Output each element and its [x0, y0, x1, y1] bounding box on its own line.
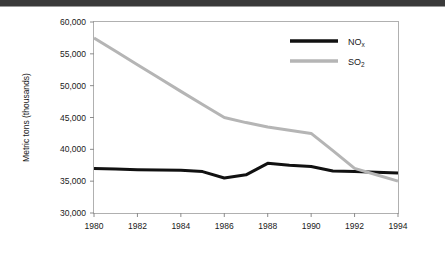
- y-tick-label: 60,000: [60, 17, 86, 27]
- x-tick-label: 1984: [171, 221, 190, 231]
- x-tick-label: 1986: [215, 221, 234, 231]
- y-tick-label: 50,000: [60, 81, 86, 91]
- y-tick-label: 35,000: [60, 176, 86, 186]
- x-tick-label: 1992: [345, 221, 364, 231]
- x-tick-label: 1994: [389, 221, 408, 231]
- y-tick-label: 45,000: [60, 113, 86, 123]
- chart-canvas: 30,00035,00040,00045,00050,00055,00060,0…: [0, 7, 445, 254]
- x-tick-label: 1982: [128, 221, 147, 231]
- x-tick-label: 1988: [258, 221, 277, 231]
- y-axis-ticks: 30,00035,00040,00045,00050,00055,00060,0…: [60, 17, 94, 218]
- y-tick-label: 55,000: [60, 49, 86, 59]
- chart-figure: 30,00035,00040,00045,00050,00055,00060,0…: [0, 0, 445, 254]
- plot-frame: [94, 22, 399, 214]
- x-axis-ticks: 19801982198419861988199019921994: [85, 213, 408, 231]
- x-tick-label: 1980: [85, 221, 104, 231]
- line-chart: 30,00035,00040,00045,00050,00055,00060,0…: [0, 7, 445, 254]
- y-axis-title: Metric tons (thousands): [21, 73, 31, 162]
- x-tick-label: 1990: [302, 221, 321, 231]
- y-tick-label: 40,000: [60, 144, 86, 154]
- y-tick-label: 30,000: [60, 208, 86, 218]
- legend-subscript-so2: 2: [361, 61, 365, 68]
